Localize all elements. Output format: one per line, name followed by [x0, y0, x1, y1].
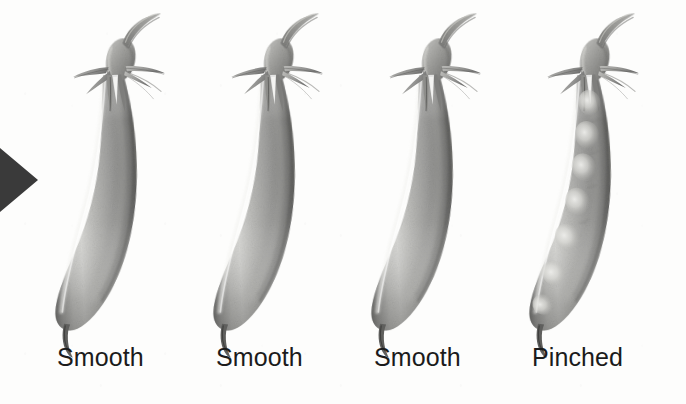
pod-label-1: Smooth: [57, 342, 144, 372]
pod-label-4: Pinched: [532, 342, 623, 372]
pod-label-row: Smooth Smooth Smooth Pinched: [0, 342, 686, 378]
left-arrow-pointer-icon: [0, 143, 38, 217]
pod-4-pinched: [513, 13, 653, 358]
pea-pod-figure: Smooth Smooth Smooth Pinched: [0, 0, 686, 404]
pod-2-smooth: [198, 13, 338, 358]
pod-label-3: Smooth: [374, 342, 461, 372]
pod-1-smooth: [40, 13, 180, 358]
pod-label-2: Smooth: [216, 342, 303, 372]
pod-3-smooth: [356, 13, 496, 358]
